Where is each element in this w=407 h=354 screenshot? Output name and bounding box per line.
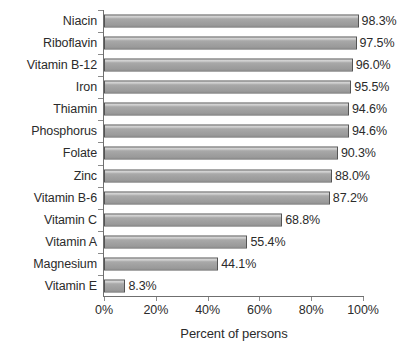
bar-rows: Niacin98.3%Riboflavin97.5%Vitamin B-1296…	[0, 10, 407, 297]
bar	[104, 81, 351, 94]
value-tick-label: 0%	[95, 303, 113, 317]
category-label: Thiamin	[0, 103, 97, 116]
value-tick	[156, 297, 157, 301]
bar	[104, 15, 359, 28]
category-label: Vitamin C	[0, 213, 97, 226]
category-label: Vitamin A	[0, 235, 97, 248]
category-tick	[98, 120, 103, 121]
bar-row: Thiamin94.6%	[0, 98, 407, 120]
bar	[104, 125, 349, 138]
category-tick	[98, 76, 103, 77]
category-tick	[98, 165, 103, 166]
bar-value-label: 90.3%	[341, 147, 376, 160]
bar-value-label: 68.8%	[285, 213, 320, 226]
bar-row: Vitamin C68.8%	[0, 209, 407, 231]
category-tick	[98, 209, 103, 210]
bar-value-label: 98.3%	[362, 15, 397, 28]
value-tick-label: 40%	[195, 303, 220, 317]
value-tick	[104, 297, 105, 301]
value-tick	[311, 297, 312, 301]
bar-row: Folate90.3%	[0, 142, 407, 164]
bar	[104, 37, 357, 50]
category-label: Magnesium	[0, 257, 97, 270]
x-axis-title: Percent of persons	[104, 326, 364, 341]
bar	[104, 257, 218, 270]
bar	[104, 191, 330, 204]
value-tick-label: 20%	[143, 303, 168, 317]
category-tick	[98, 275, 103, 276]
value-tick-label: 60%	[247, 303, 272, 317]
bar-row: Vitamin A55.4%	[0, 231, 407, 253]
category-label: Vitamin E	[0, 279, 97, 292]
bar-row: Vitamin E8.3%	[0, 275, 407, 297]
category-tick	[98, 231, 103, 232]
bar-value-label: 96.0%	[356, 59, 391, 72]
category-tick	[98, 142, 103, 143]
category-label: Phosphorus	[0, 125, 97, 138]
value-tick	[208, 297, 209, 301]
category-tick	[98, 10, 103, 11]
category-label: Zinc	[0, 169, 97, 182]
bar	[104, 213, 282, 226]
category-tick	[98, 253, 103, 254]
bar-row: Niacin98.3%	[0, 10, 407, 32]
value-tick	[259, 297, 260, 301]
category-label: Vitamin B-12	[0, 59, 97, 72]
bar-row: Iron95.5%	[0, 76, 407, 98]
category-label: Iron	[0, 81, 97, 94]
bar-value-label: 87.2%	[333, 191, 368, 204]
category-tick	[98, 32, 103, 33]
category-tick	[98, 98, 103, 99]
bar-chart: Niacin98.3%Riboflavin97.5%Vitamin B-1296…	[0, 0, 407, 354]
bar-value-label: 97.5%	[360, 37, 395, 50]
bar	[104, 235, 247, 248]
bar-value-label: 44.1%	[221, 257, 256, 270]
bar-value-label: 88.0%	[335, 169, 370, 182]
bar	[104, 279, 125, 292]
bar	[104, 147, 338, 160]
bar-value-label: 8.3%	[128, 279, 156, 292]
bar-row: Vitamin B-687.2%	[0, 187, 407, 209]
bar	[104, 169, 332, 182]
category-label: Riboflavin	[0, 37, 97, 50]
bar	[104, 59, 353, 72]
bar-row: Riboflavin97.5%	[0, 32, 407, 54]
bar-value-label: 94.6%	[352, 125, 387, 138]
category-label: Niacin	[0, 15, 97, 28]
bar-row: Vitamin B-1296.0%	[0, 54, 407, 76]
value-tick-label: 80%	[299, 303, 324, 317]
bar-row: Magnesium44.1%	[0, 253, 407, 275]
value-tick-label: 100%	[347, 303, 379, 317]
category-label: Folate	[0, 147, 97, 160]
bar-row: Zinc88.0%	[0, 165, 407, 187]
bar-value-label: 94.6%	[352, 103, 387, 116]
category-label: Vitamin B-6	[0, 191, 97, 204]
bar-value-label: 95.5%	[354, 81, 389, 94]
bar	[104, 103, 349, 116]
bar-row: Phosphorus94.6%	[0, 120, 407, 142]
category-tick	[98, 187, 103, 188]
category-tick	[98, 54, 103, 55]
value-tick	[363, 297, 364, 301]
bar-value-label: 55.4%	[250, 235, 285, 248]
